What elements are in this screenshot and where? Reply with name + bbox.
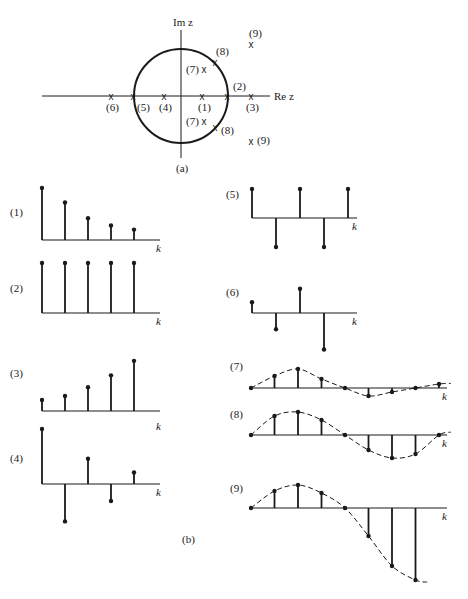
stem-dot — [274, 327, 278, 331]
pole-label: (3) — [246, 101, 259, 114]
re-axis-label: Re z — [274, 90, 294, 102]
pole-label: (9) — [257, 134, 270, 147]
figure-canvas: Im z Re z x(1)x(2)x(3)x(4)x(5)x(6)x(7)x(… — [0, 0, 468, 599]
stem-dot — [109, 499, 113, 503]
k-axis-label: k — [442, 437, 448, 449]
k-axis-label: k — [156, 420, 162, 432]
stem-dot — [366, 448, 370, 452]
k-axis-label: k — [352, 315, 358, 327]
pole-label: (6) — [106, 101, 119, 114]
part-a-caption: (a) — [176, 162, 189, 175]
stem-dot — [132, 359, 136, 363]
pole-x-icon: x — [109, 91, 114, 102]
k-axis-label: k — [442, 390, 448, 402]
stem-dot — [40, 427, 44, 431]
part-b-caption: (b) — [182, 533, 195, 546]
stem-dot — [63, 261, 67, 265]
stem-dot — [132, 261, 136, 265]
stem-dot — [40, 261, 44, 265]
pole-label: (9) — [249, 27, 262, 40]
stem-dot — [63, 200, 67, 204]
impulse-response-plots: (1)k(2)k(3)k(4)k(5)k(6)k(7)k(8)k(9)k — [10, 186, 451, 582]
stem-dot — [343, 386, 347, 390]
stem-dot — [322, 347, 326, 351]
pole-label: (8) — [221, 124, 234, 137]
stem-dot — [250, 187, 254, 191]
stem-dot — [272, 414, 276, 418]
pole-x-icon: x — [249, 136, 254, 147]
k-axis-label: k — [156, 315, 162, 327]
plot-label: (1) — [10, 206, 23, 219]
dashed-envelope — [251, 369, 451, 396]
plot-label: (9) — [230, 482, 243, 495]
stem-dot — [109, 373, 113, 377]
pole-zero-plot: Im z Re z x(1)x(2)x(3)x(4)x(5)x(6)x(7)x(… — [42, 16, 294, 175]
stem-dot — [346, 187, 350, 191]
stem-dot — [86, 385, 90, 389]
pole-x-icon: x — [131, 91, 136, 102]
plot-label: (3) — [10, 367, 23, 380]
plot-label: (2) — [10, 282, 23, 295]
stem-dot — [272, 489, 276, 493]
stem-dot — [132, 227, 136, 231]
stem-dot — [86, 216, 90, 220]
plot-label: (6) — [226, 286, 239, 299]
pole-markers: x(1)x(2)x(3)x(4)x(5)x(6)x(7)x(7)x(8)x(8)… — [106, 27, 270, 147]
pole-label: (2) — [233, 80, 246, 93]
stem-plot-5: (5)k — [226, 187, 358, 249]
plot-label: (4) — [10, 452, 23, 465]
stem-plot-2: (2)k — [10, 261, 162, 327]
pole-label: (7) — [186, 63, 199, 76]
im-axis-label: Im z — [173, 16, 193, 28]
dashed-envelope — [251, 485, 427, 582]
pole-x-icon: x — [162, 91, 167, 102]
stem-dot — [298, 187, 302, 191]
k-axis-label: k — [156, 486, 162, 498]
stem-plot-1: (1)k — [10, 186, 162, 254]
stem-dot — [319, 418, 323, 422]
stem-dot — [298, 287, 302, 291]
pole-x-icon: x — [213, 57, 218, 68]
pole-x-icon: x — [225, 91, 230, 102]
stem-plot-7: (7)k — [230, 360, 451, 402]
pole-label: (4) — [159, 101, 172, 114]
stem-dot — [40, 398, 44, 402]
stem-plot-8: (8)k — [230, 408, 451, 460]
pole-x-icon: x — [200, 91, 205, 102]
pole-label: (5) — [137, 101, 150, 114]
stem-dot — [109, 223, 113, 227]
pole-x-icon: x — [202, 64, 207, 75]
stem-dot — [319, 491, 323, 495]
stem-dot — [63, 519, 67, 523]
stem-plot-9: (9)k — [230, 482, 448, 582]
plot-label: (8) — [230, 408, 243, 421]
k-axis-label: k — [352, 220, 358, 232]
plot-label: (5) — [226, 188, 239, 201]
stem-dot — [86, 457, 90, 461]
pole-x-icon: x — [213, 122, 218, 133]
stem-plot-3: (3)k — [10, 359, 162, 432]
stem-dot — [109, 261, 113, 265]
plot-label: (7) — [230, 360, 243, 373]
pole-x-icon: x — [202, 116, 207, 127]
stem-plot-6: (6)k — [226, 286, 358, 352]
stem-dot — [274, 245, 278, 249]
pole-x-icon: x — [249, 91, 254, 102]
k-axis-label: k — [442, 510, 448, 522]
stem-dot — [250, 300, 254, 304]
stem-dot — [322, 245, 326, 249]
k-axis-label: k — [156, 242, 162, 254]
stem-dot — [63, 394, 67, 398]
pole-x-icon: x — [249, 39, 254, 50]
stem-plot-4: (4)k — [10, 427, 162, 524]
pole-label: (7) — [186, 115, 199, 128]
stem-dot — [40, 186, 44, 190]
stem-dot — [132, 470, 136, 474]
stem-dot — [86, 261, 90, 265]
pole-label: (1) — [198, 101, 211, 114]
pole-label: (8) — [216, 45, 229, 58]
